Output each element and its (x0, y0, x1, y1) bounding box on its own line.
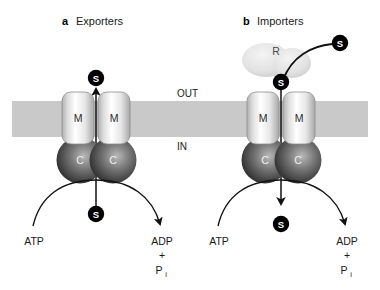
panel-b-atp-label: ATP (209, 235, 229, 247)
panel-b-c-label-right: C (294, 154, 302, 166)
svg-text:S: S (93, 73, 99, 84)
panel-b-substrate-bound: S (273, 74, 289, 90)
panel-a-letter: a (62, 15, 69, 27)
panel-a-m-label-right: M (110, 112, 119, 124)
svg-text:S: S (337, 38, 343, 49)
figure-canvas: a Exporters C C M M S S ATP ADP + P i (0, 0, 380, 290)
panel-a-title: Exporters (76, 15, 124, 27)
panel-exporters: a Exporters C C M M S S ATP ADP + P i (24, 15, 173, 279)
svg-text:S: S (278, 219, 284, 230)
panel-a-substrate-in: S (88, 206, 104, 222)
panel-b-m-label-right: M (295, 112, 304, 124)
panel-b-receptor-protein: R (242, 43, 311, 78)
panel-a-adp-label: ADP (151, 235, 173, 247)
panel-a-atp-label: ATP (24, 235, 44, 247)
panel-b-c-label-left: C (261, 154, 269, 166)
panel-b-phosphate-label: P (340, 264, 347, 276)
panel-b-substrate-in: S (273, 216, 289, 232)
panel-a-c-label-left: C (76, 154, 84, 166)
membrane-in-label: IN (177, 141, 187, 152)
panel-a-phosphate-subscript: i (165, 270, 167, 279)
panel-b-substrate-free: S (332, 35, 348, 51)
panel-b-letter: b (243, 15, 250, 27)
panel-b-receptor-label: R (272, 45, 280, 57)
panel-b-title: Importers (257, 15, 304, 27)
panel-a-plus-sign: + (159, 249, 165, 261)
panel-b-m-label-left: M (259, 112, 268, 124)
panel-a-phosphate-label: P (155, 264, 162, 276)
membrane-out-label: OUT (177, 88, 198, 99)
panel-b-adp-label: ADP (336, 235, 358, 247)
panel-a-substrate-out: S (88, 70, 104, 86)
svg-text:S: S (278, 77, 284, 88)
panel-a-m-label-left: M (74, 112, 83, 124)
panel-b-phosphate-subscript: i (350, 270, 352, 279)
svg-text:S: S (93, 209, 99, 220)
abc-transporter-diagram: a Exporters C C M M S S ATP ADP + P i (0, 0, 380, 290)
panel-b-plus-sign: + (344, 249, 350, 261)
panel-importers: b Importers R C C M M S S (209, 15, 358, 279)
panel-a-c-label-right: C (109, 154, 117, 166)
